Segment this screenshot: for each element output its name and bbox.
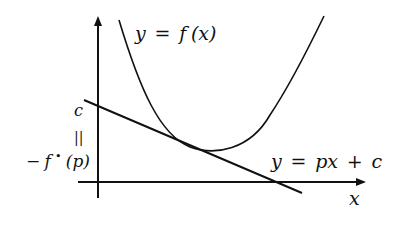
legendre-diagram: y = f (x) y = px + c x c || − f • (p) [0,0,405,227]
intercept-conjugate-label: − f • (p) [26,145,90,171]
intercept-equals-label: || [74,129,83,146]
tangent-line [84,100,302,193]
line-label: y = px + c [270,150,382,172]
x-axis-label: x [349,187,360,209]
curve-label: y = f (x) [134,22,217,44]
intercept-c-label: c [74,101,83,120]
